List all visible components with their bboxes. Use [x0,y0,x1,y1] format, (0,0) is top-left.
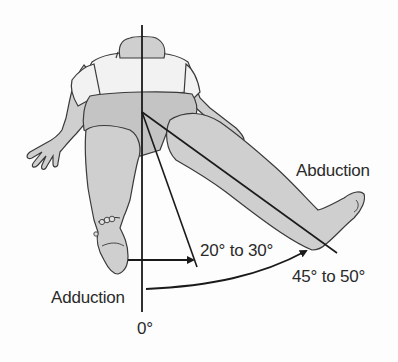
abduction-label: Abduction [296,162,370,180]
body-illustration [0,0,398,362]
abduction-range-label: 45° to 50° [292,268,365,286]
rom-diagram: Abduction 20° to 30° 45° to 50° Adductio… [0,0,398,362]
left-leg [85,126,140,275]
head [116,37,165,59]
right-leg [167,113,365,250]
zero-degree-label: 0° [137,320,153,338]
adduction-range-label: 20° to 30° [200,242,273,260]
adduction-label: Adduction [51,289,125,307]
